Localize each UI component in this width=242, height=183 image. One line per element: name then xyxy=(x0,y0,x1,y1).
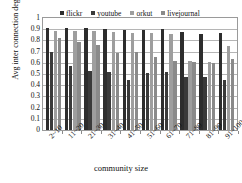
bar-flickr-91~100 xyxy=(219,33,222,130)
bar-orkut-61~70 xyxy=(169,34,172,130)
bar-livejournal-21~30 xyxy=(96,45,99,130)
bar-orkut-81~90 xyxy=(208,62,211,130)
y-tick-label: 0.1 xyxy=(31,114,40,121)
y-tick-label: 0.6 xyxy=(31,58,40,65)
bar-livejournal-51~60 xyxy=(154,57,157,130)
bar-flickr-31~40 xyxy=(103,29,106,130)
bar-group xyxy=(140,18,159,130)
bar-youtube-31~40 xyxy=(107,72,110,130)
bar-flickr-51~60 xyxy=(142,30,145,130)
bar-group xyxy=(63,18,82,130)
bar-group xyxy=(44,18,63,130)
bar-livejournal-61~70 xyxy=(173,61,176,130)
legend-item-youtube: youtube xyxy=(91,9,121,18)
bar-group xyxy=(121,18,140,130)
bar-youtube-2~10 xyxy=(50,52,53,130)
legend-swatch-icon xyxy=(91,11,95,15)
bar-group xyxy=(82,18,101,130)
y-tick-label: 0.3 xyxy=(31,92,40,99)
legend-swatch-icon xyxy=(60,11,64,15)
bar-livejournal-81~90 xyxy=(212,63,215,130)
bar-livejournal-11~20 xyxy=(77,42,80,130)
bar-flickr-21~30 xyxy=(84,28,87,130)
bar-group xyxy=(178,18,197,130)
bar-flickr-81~90 xyxy=(199,34,202,130)
bar-youtube-11~20 xyxy=(69,66,72,130)
x-axis-title: community size xyxy=(0,163,242,173)
bar-orkut-11~20 xyxy=(73,31,76,130)
bar-youtube-21~30 xyxy=(88,71,91,130)
legend-item-orkut: orkut xyxy=(130,9,152,18)
bar-livejournal-71~80 xyxy=(192,62,195,130)
y-tick-label: 0 xyxy=(36,126,40,133)
bar-orkut-51~60 xyxy=(150,33,153,130)
legend-label: youtube xyxy=(97,9,121,18)
legend-swatch-icon xyxy=(130,11,134,15)
bar-flickr-71~80 xyxy=(180,32,183,130)
y-tick-label: 1 xyxy=(36,14,40,21)
bar-youtube-51~60 xyxy=(146,73,149,130)
legend-item-livejournal: livejournal xyxy=(161,9,200,18)
legend-label: livejournal xyxy=(167,9,200,18)
bar-livejournal-91~100 xyxy=(231,59,234,130)
legend-label: orkut xyxy=(136,9,152,18)
bar-chart-figure: Avg inter connection degree 10.90.80.70.… xyxy=(0,0,242,183)
bar-youtube-61~70 xyxy=(165,72,168,130)
legend-swatch-icon xyxy=(161,11,165,15)
bar-livejournal-41~50 xyxy=(135,52,138,130)
bar-flickr-61~70 xyxy=(161,29,164,130)
y-tick-label: 0.9 xyxy=(31,25,40,32)
bar-orkut-2~10 xyxy=(54,31,57,130)
plot-area xyxy=(42,17,238,131)
bar-orkut-31~40 xyxy=(112,32,115,130)
bar-orkut-91~100 xyxy=(227,46,230,130)
y-tick-label: 0.7 xyxy=(31,47,40,54)
bar-orkut-71~80 xyxy=(188,61,191,130)
bar-group xyxy=(198,18,217,130)
y-axis-tick-labels: 10.90.80.70.60.50.40.30.20.10 xyxy=(22,12,40,132)
bar-youtube-81~90 xyxy=(203,77,206,130)
bar-groups xyxy=(43,18,237,130)
y-tick-label: 0.2 xyxy=(31,103,40,110)
bar-group xyxy=(102,18,121,130)
bar-flickr-41~50 xyxy=(123,30,126,130)
bar-livejournal-2~10 xyxy=(58,38,61,130)
bar-livejournal-31~40 xyxy=(116,53,119,130)
bar-youtube-41~50 xyxy=(127,80,130,130)
y-tick-label: 0.5 xyxy=(31,70,40,77)
y-tick-label: 0.4 xyxy=(31,81,40,88)
bar-youtube-71~80 xyxy=(184,77,187,130)
x-axis-tick-labels: 2~1011~2021~3031~4041~5051~6061~7071~808… xyxy=(42,132,238,164)
y-axis-title: Avg inter connection degree xyxy=(11,0,20,95)
bar-orkut-41~50 xyxy=(131,33,134,130)
bar-flickr-11~20 xyxy=(65,28,68,130)
bar-youtube-91~100 xyxy=(223,80,226,130)
bar-group xyxy=(217,18,236,130)
chart-legend: flickryoutubeorkutlivejournal xyxy=(60,9,200,18)
bar-group xyxy=(159,18,178,130)
bar-orkut-21~30 xyxy=(92,31,95,130)
legend-label: flickr xyxy=(66,9,82,18)
y-tick-label: 0.8 xyxy=(31,36,40,43)
legend-item-flickr: flickr xyxy=(60,9,82,18)
bar-flickr-2~10 xyxy=(46,28,49,130)
